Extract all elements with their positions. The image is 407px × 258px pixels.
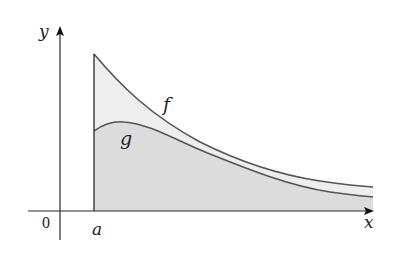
x-axis-label: x	[364, 212, 374, 232]
y-axis-label: y	[38, 21, 49, 41]
a-label: a	[92, 219, 102, 239]
area-between-curves-diagram: y 0 a x f g	[0, 0, 407, 258]
origin-label: 0	[42, 214, 50, 231]
region-under-g	[94, 122, 373, 211]
curve-g-label: g	[120, 127, 132, 149]
curve-f-label: f	[161, 93, 173, 115]
